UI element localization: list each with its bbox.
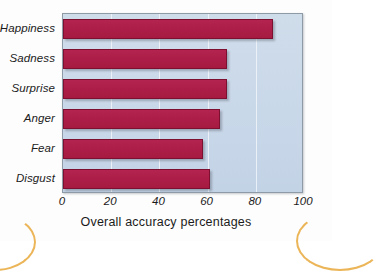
- gridline: [256, 14, 257, 192]
- bar-sadness: [63, 49, 227, 69]
- bar-happiness: [63, 19, 273, 39]
- category-label-sadness: Sadness: [10, 51, 55, 65]
- bar-row: [63, 169, 303, 189]
- x-tick-label-60: 60: [200, 195, 213, 207]
- bar-fear: [63, 139, 203, 159]
- x-axis-title: Overall accuracy percentages: [0, 215, 332, 229]
- bar-row: [63, 49, 303, 69]
- x-tick-label-80: 80: [248, 195, 261, 207]
- bar-row: [63, 109, 303, 129]
- gridline: [111, 14, 112, 192]
- category-label-surprise: Surprise: [11, 81, 55, 95]
- category-axis-labels: HappinessSadnessSurpriseAngerFearDisgust: [0, 13, 59, 193]
- bar-surprise: [63, 79, 227, 99]
- gridline: [208, 14, 209, 192]
- value-axis-ticks: 020406080100: [62, 195, 303, 213]
- bar-row: [63, 19, 303, 39]
- bar-disgust: [63, 169, 210, 189]
- category-label-happiness: Happiness: [0, 21, 55, 35]
- plot-area: [62, 13, 303, 193]
- x-tick-label-20: 20: [104, 195, 117, 207]
- x-tick-label-0: 0: [59, 195, 65, 207]
- x-tick-label-40: 40: [152, 195, 165, 207]
- category-label-anger: Anger: [24, 111, 55, 125]
- category-label-fear: Fear: [31, 141, 55, 155]
- gridline: [159, 14, 160, 192]
- bar-row: [63, 79, 303, 99]
- bar-anger: [63, 109, 220, 129]
- category-label-disgust: Disgust: [16, 171, 55, 185]
- x-tick-label-100: 100: [293, 195, 312, 207]
- bar-row: [63, 139, 303, 159]
